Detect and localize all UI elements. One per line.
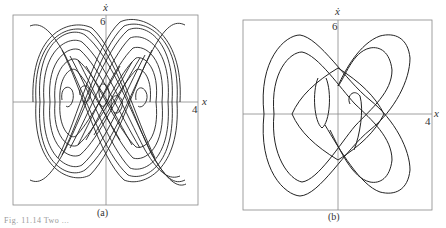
panel-a-label: (a) [97, 208, 108, 218]
panel-a-x-axis-label: x [202, 96, 207, 107]
panel-b-y-axis-label: ẋ [335, 6, 340, 17]
panel-b-frame [243, 20, 432, 210]
panel-b-y-tick-6: 6 [332, 21, 338, 32]
panel-b-label: (b) [328, 212, 340, 222]
panel-a-y-tick-6: 6 [100, 16, 106, 27]
panel-a-y-axis-label: ẋ [103, 2, 108, 13]
figure-caption: Fig. 11.14 Two ... [4, 216, 69, 225]
panel-b-x-axis-label: x [434, 108, 439, 119]
panel-b-x-tick-4: 4 [425, 116, 431, 127]
panel-b-orbit [263, 35, 410, 196]
panel-a-x-tick-4: 4 [192, 104, 198, 115]
figure: ẋ 6 x 4 (a) ẋ 6 x 4 (b) Fig. 11.14 Two .… [0, 0, 446, 228]
panel-b-plot [0, 0, 446, 228]
